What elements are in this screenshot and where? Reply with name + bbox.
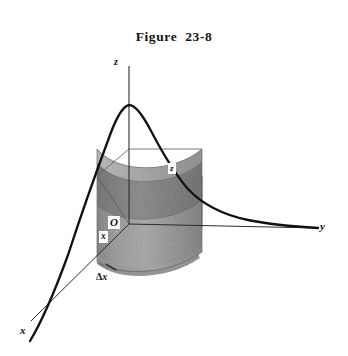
delta-variable: x: [102, 271, 107, 282]
z-axis-label: z: [114, 57, 118, 67]
figure-drawing-canvas: [0, 0, 348, 356]
shell-radius-label: x: [99, 231, 108, 243]
shell-height-label: z: [168, 163, 176, 174]
figure-container: Figure 23-8: [0, 0, 348, 356]
y-axis-label: y: [320, 221, 325, 232]
origin-label: O: [108, 216, 120, 229]
x-axis-label: x: [20, 325, 26, 336]
shell-thickness-label: Δx: [96, 272, 107, 282]
